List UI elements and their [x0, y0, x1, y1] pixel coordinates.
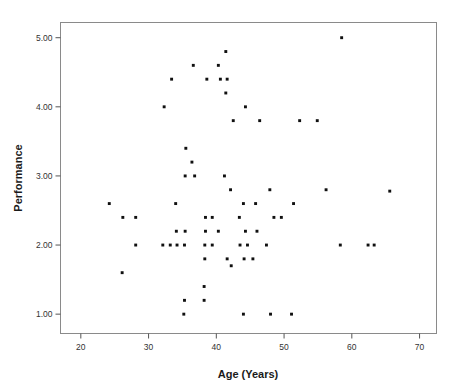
- data-point: [316, 119, 319, 122]
- data-point: [230, 264, 233, 267]
- data-point: [258, 119, 261, 122]
- data-point: [219, 78, 222, 81]
- data-point: [280, 216, 283, 219]
- x-tick-label: 30: [144, 342, 154, 352]
- data-point: [325, 188, 328, 191]
- data-point: [182, 313, 185, 316]
- data-point: [203, 257, 206, 260]
- data-point: [269, 313, 272, 316]
- x-tick-label: 60: [347, 342, 357, 352]
- data-point: [340, 36, 343, 39]
- data-point: [242, 202, 245, 205]
- scatter-plot-figure: 1.002.003.004.005.00 203040506070 Perfor…: [0, 0, 461, 390]
- data-point: [192, 64, 195, 67]
- data-point: [265, 244, 268, 247]
- data-point: [229, 188, 232, 191]
- data-point: [203, 285, 206, 288]
- data-point: [161, 244, 164, 247]
- data-point: [134, 216, 137, 219]
- x-tick-label: 50: [279, 342, 289, 352]
- data-point: [246, 244, 249, 247]
- data-point: [226, 257, 229, 260]
- data-point: [184, 230, 187, 233]
- data-point: [243, 257, 246, 260]
- data-point: [254, 202, 257, 205]
- data-point: [242, 313, 245, 316]
- plot-area-border: [61, 23, 437, 334]
- data-point: [367, 244, 370, 247]
- data-point: [251, 257, 254, 260]
- data-point: [224, 50, 227, 53]
- data-point: [217, 64, 220, 67]
- data-point: [121, 216, 124, 219]
- data-point: [170, 78, 173, 81]
- data-point: [184, 174, 187, 177]
- data-point: [238, 216, 241, 219]
- x-tick-label: 40: [212, 342, 222, 352]
- data-point: [217, 230, 220, 233]
- data-point: [204, 216, 207, 219]
- scatter-plot-svg: 1.002.003.004.005.00 203040506070 Perfor…: [0, 0, 461, 390]
- data-point: [204, 230, 207, 233]
- data-point: [226, 78, 229, 81]
- data-point: [175, 230, 178, 233]
- data-point: [339, 244, 342, 247]
- data-point: [163, 105, 166, 108]
- data-point: [239, 244, 242, 247]
- x-tick-label: 20: [76, 342, 86, 352]
- data-point: [134, 244, 137, 247]
- x-tick-label: 70: [415, 342, 425, 352]
- data-point: [223, 174, 226, 177]
- data-point: [108, 202, 111, 205]
- data-point: [298, 119, 301, 122]
- data-point: [256, 230, 259, 233]
- data-point: [121, 271, 124, 274]
- y-tick-label: 1.00: [36, 309, 53, 319]
- data-point: [224, 92, 227, 95]
- y-tick-label: 5.00: [36, 33, 53, 43]
- data-point: [292, 202, 295, 205]
- data-point: [183, 299, 186, 302]
- data-point: [190, 161, 193, 164]
- x-axis-title: Age (Years): [218, 368, 279, 380]
- data-point: [244, 105, 247, 108]
- data-point: [183, 244, 186, 247]
- data-point: [211, 216, 214, 219]
- data-point: [205, 78, 208, 81]
- data-point: [203, 244, 206, 247]
- y-tick-label: 3.00: [36, 171, 53, 181]
- data-point: [232, 119, 235, 122]
- data-point: [203, 299, 206, 302]
- data-point: [272, 216, 275, 219]
- y-tick-label: 4.00: [36, 102, 53, 112]
- data-point: [184, 147, 187, 150]
- data-point: [290, 313, 293, 316]
- data-point: [244, 230, 247, 233]
- y-tick-label: 2.00: [36, 240, 53, 250]
- data-point: [169, 244, 172, 247]
- y-axis-title: Performance: [12, 144, 24, 211]
- data-point: [373, 244, 376, 247]
- data-point: [176, 244, 179, 247]
- data-point: [193, 174, 196, 177]
- data-point: [174, 202, 177, 205]
- data-point: [268, 188, 271, 191]
- data-point: [388, 190, 391, 193]
- data-point: [211, 244, 214, 247]
